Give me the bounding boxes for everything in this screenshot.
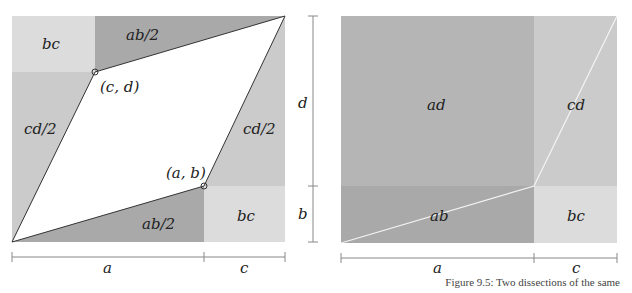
label-cd2-left: cd/2 [24, 120, 57, 138]
label-point-a-b: (a, b) [166, 164, 206, 182]
label-ad: ad [427, 96, 446, 114]
dissection-diagram: bc ab/2 cd/2 cd/2 ab/2 bc (c, d) (a, b) … [0, 0, 632, 293]
label-bc-bottom: bc [237, 207, 256, 225]
label-cd: cd [567, 96, 585, 114]
label-dim-b: b [298, 205, 308, 223]
label-point-c-d: (c, d) [100, 78, 139, 96]
label-dim-a-left: a [103, 259, 112, 277]
label-dim-d: d [298, 94, 308, 112]
label-ab2-top: ab/2 [126, 26, 159, 44]
vertical-dimension [308, 16, 318, 242]
label-dim-c-left: c [240, 259, 249, 277]
label-bc-top: bc [42, 35, 61, 53]
label-ab2-bottom: ab/2 [142, 215, 175, 233]
figure-caption: Figure 9.5: Two dissections of the same [445, 276, 620, 288]
label-dim-a-right: a [433, 259, 442, 277]
right-figure: ad cd ab bc a c [341, 16, 617, 277]
label-cd2-right: cd/2 [243, 120, 276, 138]
label-dim-c-right: c [572, 259, 581, 277]
label-bc: bc [567, 207, 586, 225]
label-ab: ab [430, 207, 449, 225]
left-figure: bc ab/2 cd/2 cd/2 ab/2 bc (c, d) (a, b) … [12, 16, 285, 277]
